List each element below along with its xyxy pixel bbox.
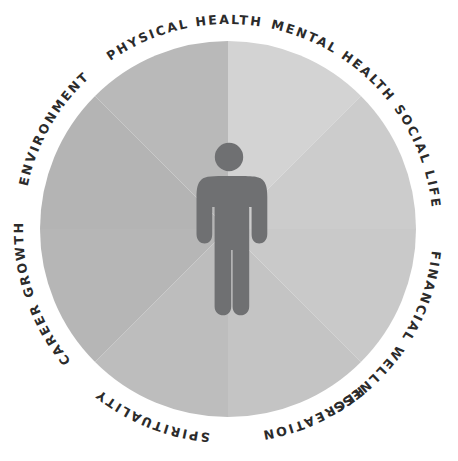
wheel-of-life-diagram: MENTAL HEALTH SOCIAL LIFE FINANCIAL WELL… bbox=[0, 0, 458, 461]
person-head bbox=[215, 143, 243, 171]
wheel-canvas: MENTAL HEALTH SOCIAL LIFE FINANCIAL WELL… bbox=[0, 0, 458, 461]
